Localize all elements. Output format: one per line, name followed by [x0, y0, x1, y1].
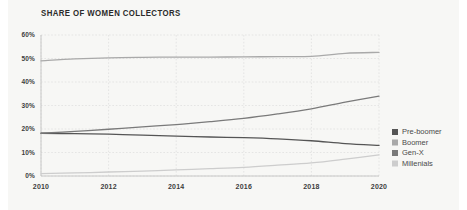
x-axis-tick-label: 2020	[371, 183, 387, 190]
x-axis-tick-label: 2016	[236, 183, 252, 190]
y-axis-tick-label: 40%	[21, 78, 35, 85]
y-axis-tick-label: 60%	[21, 31, 35, 38]
legend-label: Gen-X	[402, 148, 424, 157]
chart-legend: Pre-boomerBoomerGen-XMillenials	[392, 127, 442, 168]
series-line-pre-boomer	[41, 133, 379, 145]
legend-swatch	[392, 140, 398, 146]
chart-figure: SHARE OF WOMEN COLLECTORS 0%10%20%30%40%…	[0, 0, 467, 210]
x-axis-tick-label: 2010	[33, 183, 49, 190]
legend-swatch	[392, 150, 398, 156]
legend-label: Boomer	[402, 138, 429, 147]
y-axis-tick-label: 10%	[21, 149, 35, 156]
legend-swatch	[392, 129, 398, 135]
legend-label: Millenials	[402, 159, 433, 168]
x-axis-tick-labels: 201020122014201620182020	[33, 183, 387, 190]
x-axis-tick-label: 2012	[100, 183, 116, 190]
y-axis-tick-label: 20%	[21, 125, 35, 132]
series-line-gen-x	[41, 96, 379, 133]
series-line-boomer	[41, 52, 379, 60]
y-axis-tick-label: 50%	[21, 55, 35, 62]
y-axis-tick-labels: 0%10%20%30%40%50%60%	[21, 31, 35, 179]
y-axis-tick-label: 30%	[21, 102, 35, 109]
x-axis-tick-label: 2018	[303, 183, 319, 190]
series-line-millenials	[41, 155, 379, 174]
x-axis-tick-label: 2014	[168, 183, 184, 190]
y-axis-tick-label: 0%	[25, 172, 35, 179]
legend-label: Pre-boomer	[402, 127, 442, 136]
line-chart-plot: 0%10%20%30%40%50%60% 2010201220142016201…	[0, 0, 467, 210]
legend-swatch	[392, 161, 398, 167]
series-lines	[41, 52, 379, 173]
